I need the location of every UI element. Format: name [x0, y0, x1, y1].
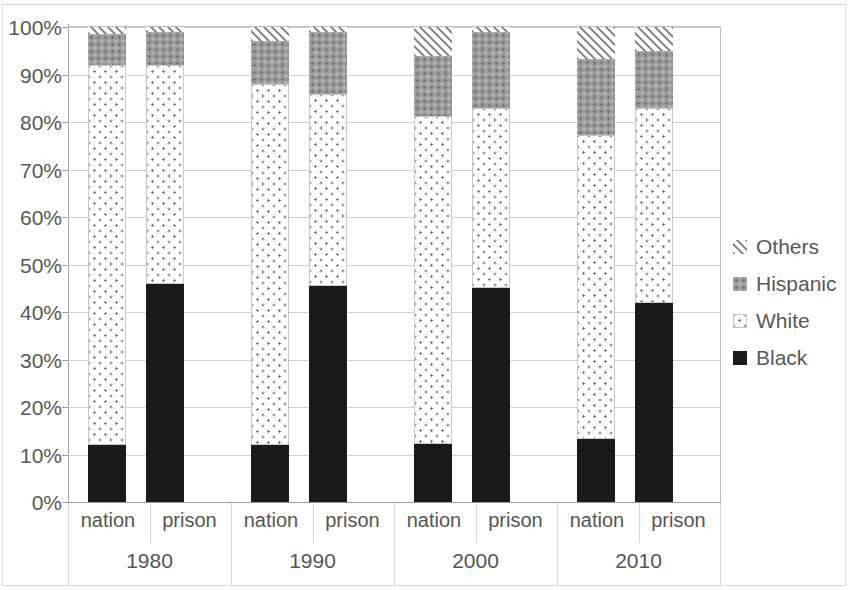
bar-segment-white	[88, 65, 126, 445]
bar-segment-others	[577, 27, 615, 59]
y-axis-tick-40: 40%	[4, 302, 62, 323]
gray-texture-swatch	[733, 277, 747, 291]
bar-segment-black	[251, 445, 289, 502]
bar-segment-black	[309, 286, 347, 502]
bar-segment-others	[635, 27, 673, 51]
bar-1990-nation[interactable]	[251, 27, 289, 502]
x-axis-category-nation-2010: nation	[556, 509, 638, 532]
bar-segment-black	[635, 303, 673, 503]
y-tick-mark-10	[62, 455, 68, 456]
chart-root: 100%90%80%70%60%50%40%30%20%10%0% nation…	[0, 0, 850, 590]
bar-segment-black	[472, 288, 510, 502]
y-tick-mark-100	[62, 27, 68, 28]
x-axis-category-prison-1980: prison	[149, 509, 231, 532]
y-axis-tick-80: 80%	[4, 112, 62, 133]
x-axis-category-prison-2010: prison	[638, 509, 720, 532]
bar-segment-black	[146, 284, 184, 503]
bar-segment-others	[309, 27, 347, 32]
bar-segment-hispanic	[577, 59, 615, 135]
bar-segment-black	[577, 439, 615, 502]
bar-segment-others	[251, 27, 289, 41]
y-axis-labels: 100%90%80%70%60%50%40%30%20%10%0%	[0, 27, 62, 502]
y-axis-tick-10: 10%	[4, 444, 62, 465]
bar-segment-white	[309, 94, 347, 286]
x-axis-labels: nationprisonnationprisonnationprisonnati…	[68, 503, 720, 585]
bar-segment-white	[472, 108, 510, 289]
y-tick-mark-70	[62, 170, 68, 171]
y-tick-mark-20	[62, 407, 68, 408]
x-axis-category-nation-2000: nation	[393, 509, 475, 532]
bar-segment-hispanic	[635, 51, 673, 108]
y-tick-mark-30	[62, 360, 68, 361]
y-axis-tick-70: 70%	[4, 159, 62, 180]
bar-segment-others	[414, 27, 452, 56]
bar-segment-white	[635, 108, 673, 303]
y-axis-tick-60: 60%	[4, 207, 62, 228]
x-axis-group-2000: 2000	[394, 549, 557, 573]
bar-segment-black	[88, 445, 126, 502]
legend-label: White	[756, 310, 810, 331]
legend-item-others[interactable]: Others	[733, 228, 845, 265]
bar-segment-hispanic	[414, 56, 452, 115]
bar-segment-white	[414, 116, 452, 444]
bar-2000-prison[interactable]	[472, 27, 510, 502]
bar-segment-hispanic	[251, 41, 289, 84]
y-tick-mark-80	[62, 122, 68, 123]
bar-1990-prison[interactable]	[309, 27, 347, 502]
bar-segment-hispanic	[472, 32, 510, 108]
bar-segment-white	[146, 65, 184, 284]
x-axis-group-2010: 2010	[557, 549, 720, 573]
chart-legend: OthersHispanicWhiteBlack	[733, 228, 845, 376]
y-tick-mark-40	[62, 312, 68, 313]
bar-segment-hispanic	[309, 32, 347, 94]
bar-segment-white	[251, 84, 289, 445]
x-axis-group-1990: 1990	[231, 549, 394, 573]
plot-area	[68, 27, 720, 502]
x-axis-category-nation-1980: nation	[67, 509, 149, 532]
x-axis-group-1980: 1980	[68, 549, 231, 573]
x-axis-category-nation-1990: nation	[230, 509, 312, 532]
y-axis-tick-0: 0%	[4, 492, 62, 513]
y-tick-mark-90	[62, 75, 68, 76]
light-dots-swatch	[733, 314, 747, 328]
legend-label: Others	[756, 236, 819, 257]
diagonal-hatch-swatch	[733, 240, 747, 254]
bar-2010-prison[interactable]	[635, 27, 673, 502]
x-axis-category-prison-2000: prison	[475, 509, 557, 532]
bar-segment-hispanic	[146, 32, 184, 65]
solid-black-swatch	[733, 351, 747, 365]
y-tick-mark-60	[62, 217, 68, 218]
y-axis-tick-100: 100%	[4, 17, 62, 38]
y-axis-tick-20: 20%	[4, 397, 62, 418]
legend-item-hispanic[interactable]: Hispanic	[733, 265, 845, 302]
bar-segment-white	[577, 135, 615, 439]
y-axis-tick-90: 90%	[4, 64, 62, 85]
bar-2000-nation[interactable]	[414, 27, 452, 502]
bar-segment-others	[88, 27, 126, 34]
y-tick-mark-50	[62, 265, 68, 266]
legend-item-black[interactable]: Black	[733, 339, 845, 376]
legend-label: Black	[756, 347, 807, 368]
legend-item-white[interactable]: White	[733, 302, 845, 339]
x-axis-separator	[720, 503, 721, 585]
bar-segment-others	[146, 27, 184, 32]
bar-segment-others	[472, 27, 510, 32]
x-axis-category-prison-1990: prison	[312, 509, 394, 532]
legend-label: Hispanic	[756, 273, 837, 294]
bar-2010-nation[interactable]	[577, 27, 615, 502]
bar-1980-nation[interactable]	[88, 27, 126, 502]
y-axis-tick-50: 50%	[4, 254, 62, 275]
bar-segment-hispanic	[88, 34, 126, 65]
bar-1980-prison[interactable]	[146, 27, 184, 502]
y-axis-tick-30: 30%	[4, 349, 62, 370]
plot-right-border	[720, 26, 721, 505]
bar-segment-black	[414, 444, 452, 502]
